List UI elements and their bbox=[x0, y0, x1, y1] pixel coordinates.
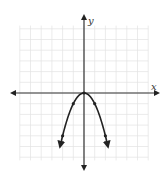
y-axis-label: y bbox=[87, 15, 94, 26]
data-point bbox=[93, 102, 96, 105]
data-point bbox=[104, 134, 107, 137]
x-axis-label: x bbox=[151, 81, 157, 92]
coordinate-plane: x y bbox=[0, 0, 167, 181]
data-point bbox=[82, 91, 85, 94]
data-point bbox=[72, 102, 75, 105]
data-point bbox=[61, 134, 64, 137]
axes: x y bbox=[13, 15, 157, 168]
